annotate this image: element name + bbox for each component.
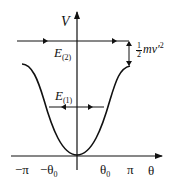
energy-level-2-label: E(2)	[54, 46, 71, 62]
tick-label-theta0: θ0	[100, 163, 110, 179]
arrow-head-icon	[112, 38, 117, 44]
potential-curve	[22, 64, 130, 155]
arrow-head-icon	[43, 38, 48, 44]
energy-level-1-label: E(1)	[55, 89, 72, 105]
kinetic-energy-label: 12mv′2	[136, 42, 164, 59]
potential-energy-diagram: V E(2) E(1) 12mv′2 −π −θ0 θ0 π θ	[0, 0, 173, 182]
tick-label-pi: π	[127, 163, 134, 176]
arrow-head-icon	[88, 104, 93, 110]
tick-label-neg-theta0: −θ0	[40, 163, 58, 179]
diagram-graphics	[0, 0, 173, 182]
tick-label-neg-pi: −π	[15, 163, 29, 176]
x-axis-label: θ	[148, 164, 154, 177]
y-axis-label: V	[61, 15, 70, 29]
